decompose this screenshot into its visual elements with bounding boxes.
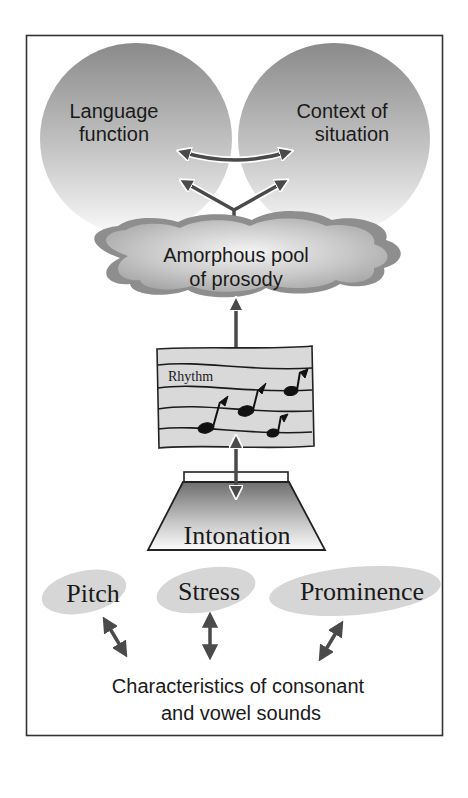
context-of-situation-node: Context of situation [238, 43, 430, 235]
characteristics-line1: Characteristics of consonant [112, 675, 365, 697]
context-of-situation-line2: situation [315, 123, 390, 145]
prominence-label: Prominence [300, 577, 424, 606]
pitch-label: Pitch [66, 579, 119, 608]
intonation-label: Intonation [184, 521, 291, 550]
rhythm-node: Rhythm [157, 346, 314, 448]
diagram-canvas: Language function Context of situation A… [0, 0, 468, 798]
amorphous-pool-line2: of prosody [189, 268, 282, 290]
language-function-line1: Language [70, 100, 159, 122]
characteristics-line2: and vowel sounds [161, 702, 321, 724]
context-of-situation-line1: Context of [296, 100, 388, 122]
rhythm-label: Rhythm [168, 369, 213, 384]
amorphous-pool-node: Amorphous pool of prosody [94, 211, 401, 297]
language-function-node: Language function [40, 43, 232, 235]
amorphous-pool-line1: Amorphous pool [163, 244, 309, 266]
language-function-line2: function [79, 123, 149, 145]
stress-label: Stress [178, 577, 240, 606]
